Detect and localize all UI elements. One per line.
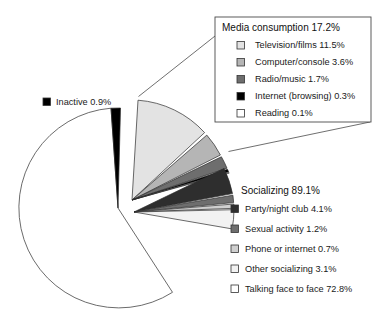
social-legend-item-1[interactable]: Sexual activity 1.2% [231,224,327,234]
social-swatch-talking-face-to-face [231,285,239,293]
socializing-title: Socializing 89.1% [241,185,320,196]
pie-chart-figure: Media consumption 17.2% Television/films… [0,0,373,318]
media-consumption-title: Media consumption 17.2% [222,22,340,33]
chart-page: Media consumption 17.2% Television/films… [0,0,373,318]
media-swatch-radio-music [237,76,245,84]
media-swatch-computer-console [237,59,245,67]
social-swatch-sexual-activity [231,225,239,233]
media-label-internet-browsing: Internet (browsing) 0.3% [255,91,355,101]
media-swatch-reading [237,110,245,118]
social-swatch-other-socializing [231,265,239,273]
media-swatch-television-films [237,42,245,50]
media-legend-item-3[interactable]: Internet (browsing) 0.3% [237,91,355,101]
media-legend-item-1[interactable]: Computer/console 3.6% [237,57,353,67]
social-label-phone-or-internet: Phone or internet 0.7% [245,244,339,254]
social-swatch-phone-or-internet [231,245,239,253]
callout-line-bottom [229,122,371,152]
media-label-computer-console: Computer/console 3.6% [255,57,353,67]
social-legend-item-4[interactable]: Talking face to face 72.8% [231,284,352,294]
media-label-reading: Reading 0.1% [255,108,313,118]
inactive-swatch [43,98,51,106]
inactive-label: Inactive 0.9% [56,97,111,107]
social-legend-item-0[interactable]: Party/night club 4.1% [231,204,332,214]
social-swatch-party-night-club [231,205,239,213]
media-label-radio-music: Radio/music 1.7% [255,74,329,84]
pie-slice-other-socializing[interactable] [134,210,234,229]
social-label-other-socializing: Other socializing 3.1% [245,264,336,274]
social-legend-item-2[interactable]: Phone or internet 0.7% [231,244,339,254]
media-label-television-films: Television/films 11.5% [255,40,345,50]
social-label-sexual-activity: Sexual activity 1.2% [245,224,327,234]
media-swatch-internet-browsing [237,93,245,101]
social-legend-item-3[interactable]: Other socializing 3.1% [231,264,336,274]
inactive-legend-item[interactable]: Inactive 0.9% [43,97,111,107]
social-label-party-night-club: Party/night club 4.1% [245,204,332,214]
social-label-talking-face-to-face: Talking face to face 72.8% [245,284,352,294]
